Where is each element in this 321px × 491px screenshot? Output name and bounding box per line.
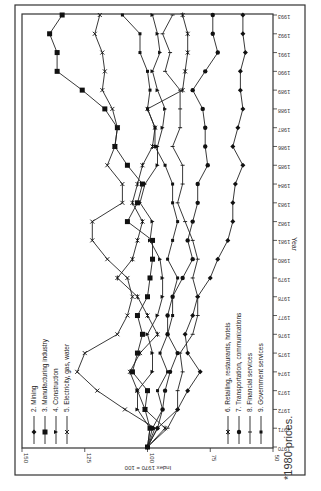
legend-label: 4. Construction bbox=[52, 368, 59, 412]
year-axis-label: Year bbox=[291, 237, 298, 252]
series-lines bbox=[47, 13, 248, 450]
year-tick-label: 1982 bbox=[278, 221, 290, 227]
year-tick-label: 1984 bbox=[278, 183, 290, 189]
year-tick-label: 1986 bbox=[278, 145, 290, 151]
series-2-mining bbox=[145, 13, 248, 450]
series-9-government-services bbox=[121, 14, 179, 449]
year-tick-label: 1993 bbox=[278, 14, 290, 20]
year-tick-label: 1975 bbox=[278, 352, 290, 358]
legend-label: 9. Government services bbox=[257, 343, 264, 412]
year-tick-label: 1988 bbox=[278, 108, 290, 114]
year-tick-label: 1990 bbox=[278, 70, 290, 76]
year-tick-label: 1977 bbox=[278, 315, 290, 321]
index-tick-label: 50 bbox=[274, 455, 280, 462]
year-tick-label: 1976 bbox=[278, 333, 290, 339]
series-5-electricity-gas-water bbox=[75, 13, 157, 449]
sector-index-chart: 5075100125150197019711972197319741975197… bbox=[0, 0, 321, 491]
index-tick-label: 75 bbox=[211, 455, 217, 462]
legend-label: 2. Mining bbox=[30, 385, 38, 412]
legend-label: 7. Transportation, communications bbox=[235, 312, 243, 412]
year-tick-label: 1973 bbox=[278, 390, 290, 396]
year-tick-label: 1991 bbox=[278, 52, 290, 58]
year-tick-label: 1974 bbox=[278, 371, 290, 377]
year-tick-label: 1972 bbox=[278, 408, 290, 414]
series-7-transportation-communications bbox=[145, 13, 220, 449]
index-axis-label: Index 1970 = 100 bbox=[124, 465, 171, 471]
year-tick-label: 1987 bbox=[278, 127, 290, 133]
legend-label: 6. Retailing, restaurants, hotels bbox=[224, 322, 232, 412]
footnote: *1980 prices. bbox=[282, 416, 294, 480]
year-tick-label: 1979 bbox=[278, 277, 290, 283]
legend-label: 5. Electricity, gas, water bbox=[63, 343, 71, 412]
year-tick-label: 1989 bbox=[278, 89, 290, 95]
year-tick-label: 1978 bbox=[278, 296, 290, 302]
year-tick-label: 1980 bbox=[278, 258, 290, 264]
year-tick-label: 1992 bbox=[278, 33, 290, 39]
series-6-retailing-restaurants-hotels bbox=[115, 13, 189, 450]
legend-label: 8. Financial services bbox=[246, 352, 253, 412]
series-8-financial-services bbox=[146, 15, 200, 447]
year-tick-label: 1983 bbox=[278, 202, 290, 208]
legend-label: 3. Manufacturing industry bbox=[41, 338, 49, 412]
year-tick-label: 1981 bbox=[278, 239, 290, 245]
index-tick-label: 150 bbox=[23, 453, 29, 464]
index-tick-label: 125 bbox=[86, 453, 92, 464]
year-tick-label: 1985 bbox=[278, 164, 290, 170]
index-tick-label: 100 bbox=[149, 453, 155, 464]
